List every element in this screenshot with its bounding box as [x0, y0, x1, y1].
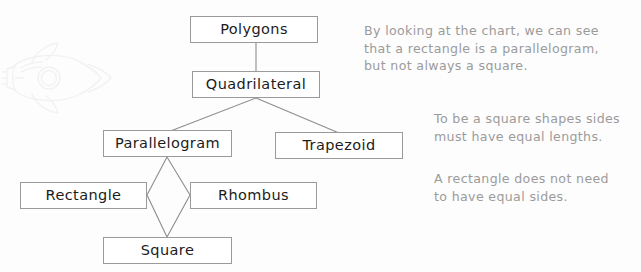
diagram-canvas: Polygons Quadrilateral Parallelogram Tra…	[0, 0, 641, 272]
annotation-note-2: To be a square shapes sides must have eq…	[434, 110, 639, 145]
node-quadrilateral-label: Quadrilateral	[206, 77, 306, 92]
node-rectangle[interactable]: Rectangle	[20, 182, 147, 209]
node-polygons[interactable]: Polygons	[190, 16, 318, 43]
node-polygons-label: Polygons	[220, 22, 288, 37]
rocket-icon	[2, 42, 114, 114]
node-parallelogram-label: Parallelogram	[115, 136, 220, 151]
node-quadrilateral[interactable]: Quadrilateral	[192, 71, 320, 98]
edge-quadrilateral-children	[168, 98, 339, 133]
node-rhombus-label: Rhombus	[218, 188, 289, 203]
node-trapezoid-label: Trapezoid	[302, 138, 375, 153]
node-parallelogram[interactable]: Parallelogram	[103, 130, 232, 157]
node-square-label: Square	[141, 243, 194, 258]
node-rhombus[interactable]: Rhombus	[190, 182, 317, 209]
node-square[interactable]: Square	[103, 237, 232, 264]
node-trapezoid[interactable]: Trapezoid	[275, 132, 403, 159]
annotation-note-3: A rectangle does not need to have equal …	[434, 170, 639, 205]
node-rectangle-label: Rectangle	[46, 188, 122, 203]
edge-diamond-parallelogram-square	[147, 157, 190, 237]
annotation-note-1: By looking at the chart, we can see that…	[364, 22, 636, 75]
